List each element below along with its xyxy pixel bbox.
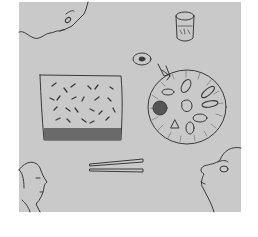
round-platter — [148, 64, 226, 144]
face-bottom-right — [201, 148, 241, 213]
chopsticks — [90, 159, 143, 172]
face-bottom-left — [19, 162, 47, 212]
small-dish — [133, 53, 151, 65]
glass — [176, 12, 194, 41]
face-top-left — [19, 2, 88, 38]
sketch-drawing — [0, 0, 258, 237]
rice-tray — [40, 75, 122, 140]
